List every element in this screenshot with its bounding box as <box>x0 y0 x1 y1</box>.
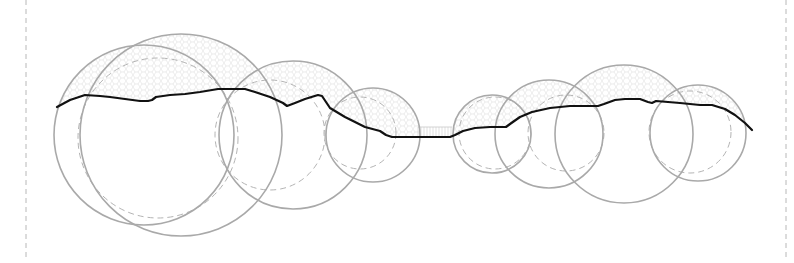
diagram-canvas <box>0 0 794 263</box>
mesh-texture <box>0 0 794 263</box>
terrain-circle-diagram <box>0 0 794 263</box>
bridge <box>418 127 452 137</box>
